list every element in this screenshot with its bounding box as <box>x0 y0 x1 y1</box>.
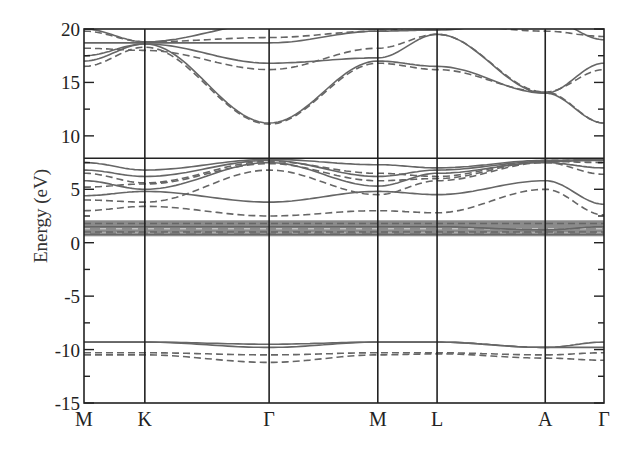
y-tick-label: 20 <box>61 19 80 40</box>
k-path-labels: MKΓMLAΓ <box>75 408 610 430</box>
high-symmetry-lines <box>145 29 545 403</box>
y-tick-label: 5 <box>71 179 81 200</box>
y-tick-label: -10 <box>55 340 80 361</box>
y-tick-label: 15 <box>61 72 80 93</box>
band-dashed <box>84 162 604 188</box>
band-dashed <box>84 24 604 42</box>
band-curves <box>84 18 604 362</box>
band-structure-chart: -15-10-505101520 MKΓMLAΓ Energy (eV) <box>0 0 632 451</box>
y-tick-label: 0 <box>71 233 81 254</box>
y-tick-label: 10 <box>61 126 80 147</box>
y-axis-ticks: -15-10-505101520 <box>55 19 604 414</box>
band-solid <box>84 342 604 347</box>
k-point-label: Γ <box>598 408 610 430</box>
k-point-label: K <box>138 408 153 430</box>
k-point-label: A <box>538 408 553 430</box>
band-solid <box>84 44 604 123</box>
y-tick-label: -5 <box>64 286 80 307</box>
y-axis-title: Energy (eV) <box>30 169 52 263</box>
k-point-label: M <box>75 408 93 430</box>
k-point-label: Γ <box>263 408 275 430</box>
k-point-label: M <box>369 408 387 430</box>
k-point-label: L <box>431 408 443 430</box>
